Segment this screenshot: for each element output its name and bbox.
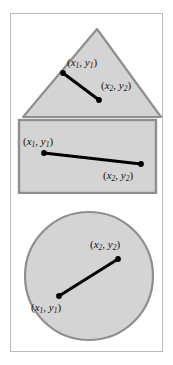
rectangle-label-p1: (x1, y1) (23, 136, 53, 147)
triangle-label-p1: (x1, y1) (67, 57, 97, 68)
rectangle-label-p2: (x2, y2) (103, 170, 133, 181)
triangle-outline (23, 29, 161, 117)
triangle-label-p2: (x2, y2) (101, 80, 131, 91)
panel-circle: (x2, y2) (x1, y1) (11, 208, 163, 348)
triangle-point-2 (96, 97, 102, 103)
circle-point-1 (56, 293, 62, 299)
panel-triangle: (x1, y1) (x2, y2) (11, 14, 163, 120)
circle-shape (11, 208, 163, 348)
circle-label-p1: (x1, y1) (31, 302, 61, 313)
figure-root: (x1, y1) (x2, y2) (x1, y1) (x2, y2) (0, 0, 173, 365)
rectangle-point-2 (138, 161, 144, 167)
triangle-point-1 (60, 70, 66, 76)
figure-frame: (x1, y1) (x2, y2) (x1, y1) (x2, y2) (10, 13, 163, 352)
rectangle-shape (11, 118, 163, 194)
circle-point-2 (115, 256, 121, 262)
panel-rectangle: (x1, y1) (x2, y2) (11, 118, 163, 194)
circle-label-p2: (x2, y2) (90, 239, 120, 250)
rectangle-point-1 (41, 150, 47, 156)
